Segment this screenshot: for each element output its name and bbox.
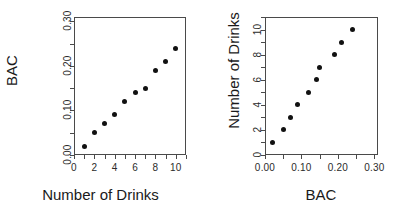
y-tick-label: 2: [253, 127, 264, 133]
x-tick-mark: [338, 155, 339, 159]
data-point: [288, 115, 293, 120]
x-tick-mark: [145, 155, 146, 159]
plot-frame-right: [265, 17, 378, 155]
x-tick-label: 8: [153, 162, 159, 173]
y-tick-label: 0.30: [62, 11, 73, 31]
data-point: [332, 52, 337, 57]
x-tick-label: 10: [170, 162, 182, 173]
y-axis-title-right: Number of Drinks: [225, 1, 242, 141]
y-tick-label: 0.10: [62, 100, 73, 120]
x-tick-label: 4: [112, 162, 118, 173]
x-tick-label: 0.30: [364, 162, 384, 173]
y-tick-mark: [70, 88, 74, 89]
plot-frame-left: [74, 17, 186, 155]
x-tick-mark: [283, 155, 284, 159]
x-tick-label: 2: [91, 162, 97, 173]
y-tick-mark: [261, 17, 265, 18]
y-tick-label: 0.00: [62, 144, 73, 164]
y-tick-mark: [70, 133, 74, 134]
y-tick-label: 4: [253, 101, 264, 107]
data-point: [350, 27, 355, 32]
data-point: [306, 90, 311, 95]
x-tick-label: 0.20: [328, 162, 348, 173]
y-tick-label: 0: [253, 152, 264, 158]
y-tick-mark: [261, 142, 265, 143]
x-tick-mark: [356, 155, 357, 159]
x-tick-mark: [166, 155, 167, 159]
x-axis-title-right: BAC: [306, 186, 337, 203]
x-tick-mark: [135, 155, 136, 159]
x-tick-mark: [105, 155, 106, 159]
x-tick-mark: [176, 155, 177, 159]
x-tick-mark: [186, 155, 187, 159]
x-tick-mark: [94, 155, 95, 159]
x-tick-mark: [155, 155, 156, 159]
x-tick-mark: [115, 155, 116, 159]
data-point: [317, 65, 322, 70]
x-tick-mark: [301, 155, 302, 159]
data-point: [143, 86, 148, 91]
y-tick-label: 8: [253, 51, 264, 57]
x-axis-title-left: Number of Drinks: [42, 186, 159, 203]
y-tick-label: 6: [253, 76, 264, 82]
data-point: [173, 46, 178, 51]
x-tick-mark: [125, 155, 126, 159]
x-tick-mark: [84, 155, 85, 159]
x-tick-mark: [374, 155, 375, 159]
scatterplot-figure: 0246810 0.000.100.200.30 BAC Number of D…: [0, 0, 403, 217]
x-tick-label: 6: [132, 162, 138, 173]
y-axis-title-left: BAC: [3, 41, 20, 101]
data-point: [82, 144, 87, 149]
panel-drinks-vs-bac: 0.000.100.200.30 0246810 Number of Drink…: [202, 0, 403, 217]
y-tick-mark: [261, 117, 265, 118]
x-tick-label: 0.10: [291, 162, 311, 173]
data-point: [133, 90, 138, 95]
data-point: [270, 140, 275, 145]
y-tick-mark: [261, 92, 265, 93]
y-tick-mark: [261, 42, 265, 43]
y-tick-label: 10: [253, 23, 264, 35]
y-tick-mark: [261, 67, 265, 68]
x-tick-mark: [265, 155, 266, 159]
x-tick-label: 0.00: [255, 162, 275, 173]
y-tick-mark: [70, 44, 74, 45]
data-point: [314, 77, 319, 82]
x-tick-mark: [320, 155, 321, 159]
y-tick-label: 0.20: [62, 55, 73, 75]
x-tick-mark: [74, 155, 75, 159]
panel-bac-vs-drinks: 0246810 0.000.100.200.30 BAC Number of D…: [0, 0, 201, 217]
data-point: [339, 40, 344, 45]
data-point: [153, 68, 158, 73]
